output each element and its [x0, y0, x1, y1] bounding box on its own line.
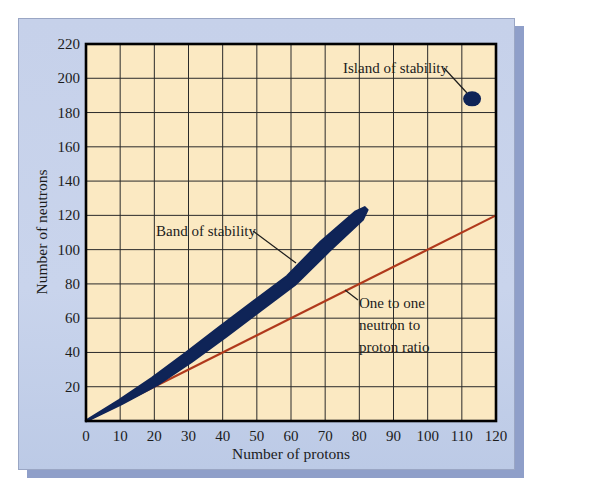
- y-axis-label: Number of neutrons: [33, 170, 50, 295]
- y-tick-label: 100: [58, 242, 81, 258]
- island-of-stability-blob: [463, 91, 481, 106]
- x-tick-label: 20: [147, 428, 162, 444]
- x-tick-label: 100: [416, 428, 439, 444]
- x-tick-label: 80: [352, 428, 367, 444]
- x-axis-ticks: 0102030405060708090100110120: [82, 428, 507, 444]
- y-tick-label: 140: [58, 173, 81, 189]
- y-tick-label: 200: [58, 70, 81, 86]
- y-tick-label: 80: [65, 276, 80, 292]
- y-tick-label: 220: [58, 36, 81, 52]
- ratio-annotation-line2: neutron to: [359, 317, 420, 333]
- x-tick-label: 40: [215, 428, 230, 444]
- x-tick-label: 70: [318, 428, 333, 444]
- x-tick-label: 10: [113, 428, 128, 444]
- x-tick-label: 50: [249, 428, 264, 444]
- plot-area: 0102030405060708090100110120 20406080100…: [58, 36, 508, 444]
- y-tick-label: 20: [65, 379, 80, 395]
- y-tick-label: 180: [58, 105, 81, 121]
- y-tick-label: 120: [58, 207, 81, 223]
- x-tick-label: 120: [485, 428, 508, 444]
- y-tick-label: 160: [58, 139, 81, 155]
- x-tick-label: 30: [181, 428, 196, 444]
- chart: 0102030405060708090100110120 20406080100…: [0, 0, 598, 487]
- x-tick-label: 90: [386, 428, 401, 444]
- x-axis-label: Number of protons: [232, 445, 350, 462]
- ratio-annotation-line3: proton ratio: [359, 339, 429, 355]
- ratio-annotation-line1: One to one: [359, 295, 425, 311]
- band-annotation: Band of stability: [156, 223, 256, 239]
- y-axis-ticks: 20406080100120140160180200220: [58, 36, 81, 395]
- y-tick-label: 60: [65, 310, 80, 326]
- x-tick-label: 60: [284, 428, 299, 444]
- island-annotation: Island of stability: [343, 60, 448, 76]
- y-tick-label: 40: [65, 344, 80, 360]
- x-tick-label: 0: [82, 428, 90, 444]
- x-tick-label: 110: [451, 428, 473, 444]
